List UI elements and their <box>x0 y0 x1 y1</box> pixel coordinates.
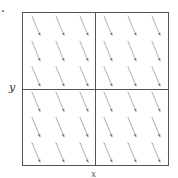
field-arrow <box>32 117 41 137</box>
field-arrow <box>104 117 113 137</box>
field-arrow <box>80 142 89 162</box>
field-arrow <box>128 16 137 36</box>
field-arrow <box>32 92 41 112</box>
field-arrow <box>56 142 65 162</box>
field-arrow <box>104 66 113 86</box>
field-arrow <box>56 41 65 61</box>
field-arrow <box>56 92 65 112</box>
y-axis-label: y <box>9 81 15 94</box>
field-arrow <box>32 142 41 162</box>
field-arrow <box>128 142 137 162</box>
vector-field-plot <box>0 0 178 178</box>
x-axis-label: x <box>91 170 96 178</box>
field-arrow <box>152 117 161 137</box>
field-arrow <box>152 92 161 112</box>
field-arrow <box>104 142 113 162</box>
field-arrow <box>152 41 161 61</box>
field-arrow <box>104 41 113 61</box>
field-arrow <box>80 66 89 86</box>
field-arrow <box>56 117 65 137</box>
field-arrow <box>80 117 89 137</box>
field-arrow <box>128 41 137 61</box>
field-arrow <box>32 41 41 61</box>
field-arrow <box>128 66 137 86</box>
field-arrow <box>104 16 113 36</box>
field-arrow <box>104 92 113 112</box>
field-arrow <box>128 92 137 112</box>
field-arrow <box>152 16 161 36</box>
field-arrow <box>152 66 161 86</box>
field-arrow <box>32 66 41 86</box>
field-arrow <box>56 66 65 86</box>
field-arrow <box>152 142 161 162</box>
field-arrow <box>80 92 89 112</box>
field-arrow <box>80 41 89 61</box>
field-arrow <box>80 16 89 36</box>
field-arrow <box>128 117 137 137</box>
field-arrow <box>32 16 41 36</box>
field-arrow <box>56 16 65 36</box>
